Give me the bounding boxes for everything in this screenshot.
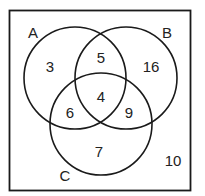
region-b-only: 16 bbox=[143, 58, 160, 75]
region-a-and-b-only: 5 bbox=[97, 49, 105, 66]
region-a-only: 3 bbox=[46, 58, 54, 75]
region-a-and-c-only: 6 bbox=[66, 104, 74, 121]
region-a-and-b-and-c: 4 bbox=[97, 88, 105, 105]
set-a-label: A bbox=[28, 24, 38, 41]
region-c-only: 7 bbox=[95, 143, 103, 160]
set-c-label: C bbox=[60, 167, 71, 184]
region-outside: 10 bbox=[165, 152, 182, 169]
venn-diagram: A B C 3 5 16 4 6 9 7 10 bbox=[0, 0, 205, 196]
region-b-and-c-only: 9 bbox=[125, 104, 133, 121]
set-b-label: B bbox=[162, 24, 172, 41]
